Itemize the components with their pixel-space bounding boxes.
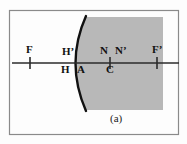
front-focal-point-F: F xyxy=(26,44,33,55)
surface-vertex-A: A xyxy=(77,64,85,75)
principal-point-H: H xyxy=(61,64,70,75)
figure-caption: (a) xyxy=(110,113,122,124)
back-focal-point-F-prime: F’ xyxy=(152,44,162,55)
nodal-point-N-prime: N’ xyxy=(115,45,127,56)
nodal-point-N: N xyxy=(100,45,108,56)
center-of-curvature-C: C xyxy=(106,64,114,75)
figure-canvas xyxy=(0,0,187,144)
principal-point-H-prime: H’ xyxy=(62,46,74,57)
optics-figure: FH’HANN’CF’ (a) xyxy=(0,0,187,144)
